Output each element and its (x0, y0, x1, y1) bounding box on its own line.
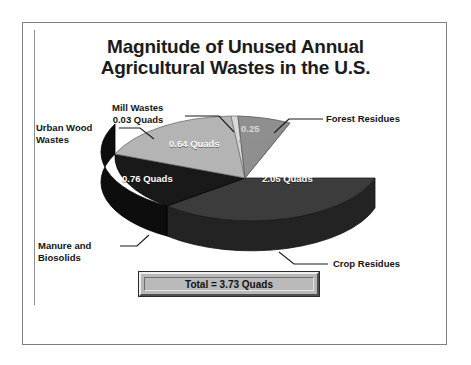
title-line-2: Agricultural Wastes in the U.S. (36, 57, 435, 78)
total-label: Total = 3.73 Quads (185, 279, 273, 290)
callout-forest-residues-label: Forest Residues (326, 113, 400, 125)
callout-urban-wood-line-1: Urban Wood (36, 122, 92, 134)
value-label-urban-wood: 0.64 Quads (169, 138, 220, 149)
callout-forest-residues: Forest Residues (326, 113, 400, 125)
callout-crop-residues: Crop Residues (333, 258, 400, 270)
leader-line-manure (120, 235, 149, 246)
callout-urban-wood: Urban Wood Wastes (36, 122, 92, 145)
leader-line-crop-residues (279, 252, 328, 264)
value-label-manure: 0.76 Quads (122, 173, 173, 184)
callout-manure-line-1: Manure and (38, 240, 91, 252)
total-box: Total = 3.73 Quads (139, 272, 319, 296)
left-accent-rule (34, 30, 35, 305)
callout-mill-wastes-line-1: Mill Wastes (112, 102, 163, 114)
callout-mill-wastes-line-2: 0.03 Quads (112, 114, 163, 126)
value-label-forest-residues-unit: Quads (239, 135, 269, 146)
total-box-inner: Total = 3.73 Quads (144, 277, 314, 291)
slide-canvas: Magnitude of Unused Annual Agricultural … (0, 0, 471, 365)
value-label-crop-residues: 2.05 Quads (262, 173, 313, 184)
callout-manure: Manure and Biosolids (38, 240, 91, 263)
pie-chart: 0.64 Quads 0.25 Quads 0.76 Quads 2.05 Qu… (36, 92, 436, 282)
callout-manure-line-2: Biosolids (38, 252, 91, 264)
page-title: Magnitude of Unused Annual Agricultural … (36, 36, 435, 78)
callout-urban-wood-line-2: Wastes (36, 134, 92, 146)
callout-crop-residues-label: Crop Residues (333, 258, 400, 270)
title-line-1: Magnitude of Unused Annual (107, 36, 364, 57)
value-label-forest-residues: 0.25 (241, 123, 260, 134)
callout-mill-wastes: Mill Wastes 0.03 Quads (112, 102, 163, 125)
